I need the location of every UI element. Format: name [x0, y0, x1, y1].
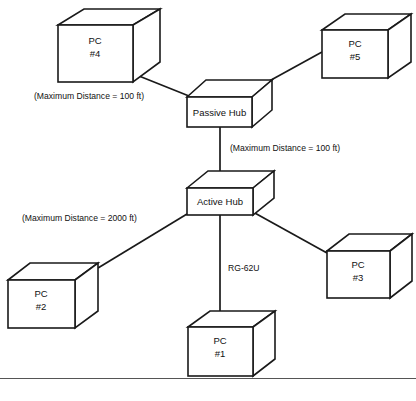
diagram-canvas: PC #4 PC #5 Passive Hub Active Hub	[0, 0, 416, 401]
link-active-hub-to-pc3	[253, 212, 327, 253]
edge-label-pc4-passive-distance: (Maximum Distance = 100 ft)	[34, 92, 144, 101]
node-pc1[interactable]: PC #1	[188, 311, 275, 376]
pc4-label-line1: PC	[88, 35, 101, 46]
pc2-label-line1: PC	[34, 288, 47, 299]
pc1-label-line2: #1	[215, 348, 226, 359]
pc1-label-line1: PC	[213, 335, 226, 346]
pc2-label-line2: #2	[36, 301, 47, 312]
node-pc5[interactable]: PC #5	[322, 14, 411, 78]
edge-label-pc2-active-distance: (Maximum Distance = 2000 ft)	[22, 214, 137, 223]
pc5-label-line2: #5	[350, 51, 361, 62]
network-diagram: PC #4 PC #5 Passive Hub Active Hub	[0, 0, 416, 401]
active-hub-label: Active Hub	[197, 196, 243, 207]
node-pc2[interactable]: PC #2	[8, 263, 98, 328]
passive-hub-label: Passive Hub	[193, 107, 246, 118]
node-active-hub[interactable]: Active Hub	[187, 171, 274, 215]
pc3-label-line1: PC	[351, 259, 364, 270]
pc3-label-line2: #3	[353, 272, 364, 283]
pc4-label-line2: #4	[90, 48, 101, 59]
edge-label-passive-active-distance: (Maximum Distance = 100 ft)	[230, 144, 340, 153]
pc5-label-line1: PC	[348, 38, 361, 49]
node-passive-hub[interactable]: Passive Hub	[187, 80, 272, 127]
node-pc3[interactable]: PC #3	[327, 234, 412, 298]
link-pc4-to-passive-hub	[139, 76, 189, 96]
edge-label-rg62u-cable: RG-62U	[228, 264, 260, 273]
node-pc4[interactable]: PC #4	[58, 9, 160, 82]
